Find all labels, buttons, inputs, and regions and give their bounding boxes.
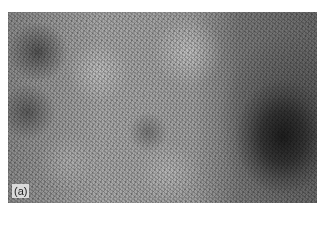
- texture-overlay: [8, 12, 317, 203]
- micrograph-image: (a): [8, 12, 317, 203]
- panel-label: (a): [12, 184, 29, 198]
